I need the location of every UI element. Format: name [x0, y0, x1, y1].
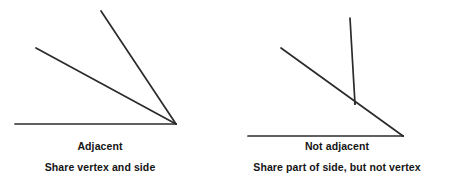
right-vertex-point: [402, 135, 404, 137]
right-caption-subtitle: Share part of side, but not vertex: [237, 162, 437, 173]
right-caption-title: Not adjacent: [237, 141, 437, 152]
left-caption-subtitle: Share vertex and side: [0, 162, 200, 173]
right-intersection-point: [354, 103, 356, 105]
left-shared-vertex-point: [175, 123, 177, 125]
left-caption-title: Adjacent: [0, 141, 200, 152]
angle-comparison-figure: Adjacent Share vertex and side Not adjac…: [0, 0, 450, 193]
